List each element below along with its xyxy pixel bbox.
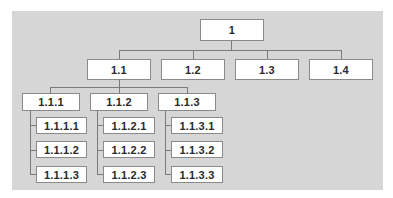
connector	[119, 50, 342, 51]
node-1-1-2-3: 1.1.2.3	[103, 166, 155, 183]
node-1-1-3-3: 1.1.3.3	[171, 166, 223, 183]
node-1-1-3-1: 1.1.3.1	[171, 117, 223, 134]
node-1-1-3-2: 1.1.3.2	[171, 141, 223, 158]
connector	[341, 50, 342, 59]
connector	[119, 80, 120, 87]
node-1-1-2-1: 1.1.2.1	[103, 117, 155, 134]
node-1-3: 1.3	[235, 59, 299, 80]
node-1-1-1: 1.1.1	[22, 93, 80, 111]
node-1-1-2-2: 1.1.2.2	[103, 141, 155, 158]
node-1-1-1-3: 1.1.1.3	[36, 166, 87, 183]
node-1-1-1-1: 1.1.1.1	[36, 117, 87, 134]
connector	[267, 50, 268, 59]
node-1-2: 1.2	[161, 59, 225, 80]
node-1-1-2: 1.1.2	[90, 93, 148, 111]
node-1-4: 1.4	[309, 59, 373, 80]
connector	[30, 111, 31, 175]
connector	[119, 50, 120, 59]
connector	[165, 111, 166, 175]
connector	[231, 41, 232, 50]
connector	[97, 111, 98, 175]
node-1-1-3: 1.1.3	[158, 93, 216, 111]
node-1-1: 1.1	[87, 59, 151, 80]
node-1-1-1-2: 1.1.1.2	[36, 141, 87, 158]
node-root: 1	[200, 19, 264, 41]
connector	[193, 50, 194, 59]
